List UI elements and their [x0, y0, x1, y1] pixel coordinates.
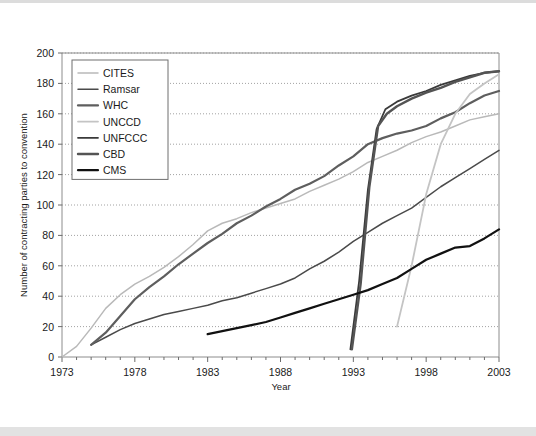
y-tick-label: 100	[36, 199, 54, 211]
legend-label-cites: CITES	[103, 67, 134, 79]
y-tick-label: 80	[42, 229, 54, 241]
series-line-unfccc	[350, 71, 499, 349]
y-tick-label: 140	[36, 138, 54, 150]
x-axis-tick-labels: 1973197819831988199319982003	[50, 366, 511, 378]
y-tick-label: 60	[42, 260, 54, 272]
x-tick-label: 1978	[123, 366, 147, 378]
legend-label-cbd: CBD	[103, 148, 126, 160]
chart-legend: CITESRamsarWHCUNCCDUNFCCCCBDCMS	[72, 60, 168, 179]
legend-label-cms: CMS	[103, 164, 126, 176]
y-axis-tick-labels: 020406080100120140160180200	[36, 47, 54, 363]
y-tick-label: 0	[48, 351, 54, 363]
page-root: 020406080100120140160180200 197319781983…	[0, 0, 536, 436]
y-tick-label: 20	[42, 321, 54, 333]
series-line-cbd	[352, 71, 499, 349]
legend-label-unfccc: UNFCCC	[103, 132, 148, 144]
legend-label-ramsar: Ramsar	[103, 83, 140, 95]
x-tick-label: 1983	[196, 366, 220, 378]
x-tick-label: 2003	[487, 366, 511, 378]
legend-label-unccd: UNCCD	[103, 116, 141, 128]
x-tick-label: 1993	[342, 366, 366, 378]
x-tick-label: 1973	[50, 366, 74, 378]
y-tick-label: 40	[42, 290, 54, 302]
y-tick-label: 180	[36, 77, 54, 89]
x-axis-title: Year	[271, 381, 290, 392]
series-line-unccd	[397, 74, 499, 326]
series-line-cms	[208, 229, 499, 334]
x-tick-label: 1988	[269, 366, 293, 378]
line-chart: 020406080100120140160180200 197319781983…	[0, 0, 536, 436]
y-tick-label: 200	[36, 47, 54, 59]
legend-label-whc: WHC	[103, 99, 128, 111]
y-tick-label: 160	[36, 108, 54, 120]
y-axis-title: Number of contracting parties to convent…	[18, 113, 29, 297]
y-tick-label: 120	[36, 169, 54, 181]
x-tick-label: 1998	[414, 366, 438, 378]
